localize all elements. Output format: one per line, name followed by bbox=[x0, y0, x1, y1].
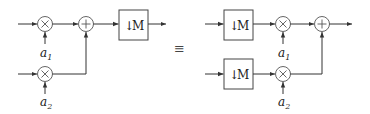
multiplier-1-node bbox=[38, 17, 53, 32]
coef-a2-label: a2 bbox=[278, 95, 290, 111]
adder-node bbox=[79, 17, 94, 32]
downsample-factor: M bbox=[237, 19, 249, 33]
downsampler-1-box: ↓ M bbox=[224, 10, 253, 40]
multiplier-2-node bbox=[38, 67, 53, 82]
adder-node bbox=[315, 17, 330, 32]
block-diagram: a1 ↓ M a2 ≡ bbox=[0, 0, 370, 114]
mult2-to-adder-wire bbox=[291, 32, 323, 74]
downsample-factor: M bbox=[237, 68, 249, 82]
left-system: a1 ↓ M a2 bbox=[18, 10, 166, 111]
right-system: ↓ M a1 ↓ M a2 bbox=[205, 10, 352, 111]
downsampler-2-box: ↓ M bbox=[224, 59, 253, 89]
equivalence-symbol: ≡ bbox=[174, 41, 185, 56]
downsampler-box: ↓ M bbox=[119, 10, 148, 40]
coef-a2-label: a2 bbox=[40, 95, 52, 111]
mult2-to-adder-wire bbox=[53, 32, 87, 74]
multiplier-1-node bbox=[276, 17, 291, 32]
coef-a1-label: a1 bbox=[40, 46, 52, 62]
multiplier-2-node bbox=[276, 67, 291, 82]
downsample-factor: M bbox=[132, 19, 144, 33]
coef-a1-label: a1 bbox=[278, 46, 290, 62]
